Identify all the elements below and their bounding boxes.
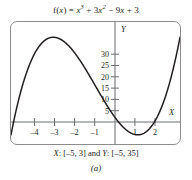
graph-figure: f(x) = x3 + 3x2 − 9x + 3: [0, 0, 192, 180]
panel-label: (a): [0, 163, 192, 173]
x-tick-label-1: 1: [133, 128, 137, 137]
plot-canvas: –4 –3 –2 –1 1 2 5 10 15 20 25 30 Y X: [11, 22, 180, 144]
y-tick-label-15: 15: [101, 84, 109, 93]
equation-plus-constant: + 3: [124, 5, 138, 15]
function-curve: [11, 37, 180, 135]
x-tick-label--3: –3: [50, 128, 59, 137]
x-tick-label--2: –2: [70, 128, 79, 137]
equation-plus-3: + 3: [84, 5, 98, 15]
x-tick-label-2: 2: [153, 128, 157, 137]
plot-frame: –4 –3 –2 –1 1 2 5 10 15 20 25 30 Y X: [10, 21, 181, 145]
x-axis-label: X: [168, 107, 175, 117]
x-tick-label--4: –4: [29, 128, 38, 137]
y-tick-label-25: 25: [101, 61, 109, 70]
axis-range-caption: X: [–5, 3] and Y: [–5, 35]: [0, 148, 192, 158]
y-tick-label-30: 30: [101, 50, 109, 59]
x-tick-labels: –4 –3 –2 –1 1 2: [29, 128, 157, 137]
x-tick-label--1: –1: [90, 128, 99, 137]
y-axis-label: Y: [121, 24, 127, 34]
function-equation-title: f(x) = x3 + 3x2 − 9x + 3: [0, 5, 192, 15]
range-x-values: : [–5, 3] and: [59, 148, 103, 158]
range-y-values: : [–5, 35]: [107, 148, 138, 158]
equation-minus-9: − 9: [106, 5, 120, 15]
equation-equals: =: [67, 5, 77, 15]
y-tick-label-20: 20: [101, 73, 109, 82]
